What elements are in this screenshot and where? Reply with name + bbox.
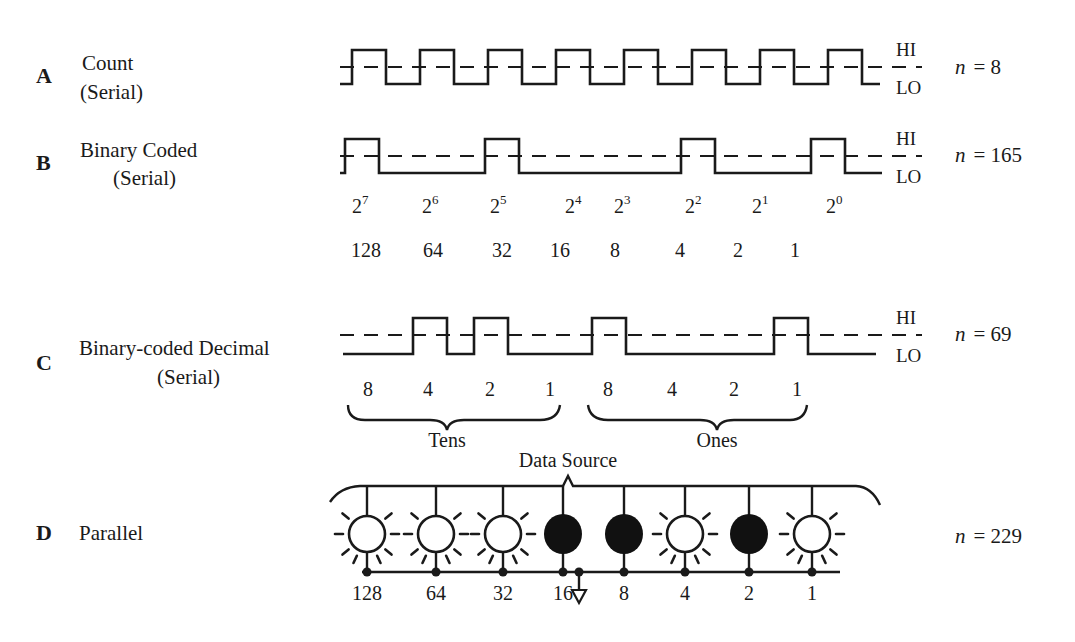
light-ray [377, 556, 380, 563]
junction-dot [559, 568, 568, 577]
data-source-bus [330, 476, 880, 505]
light-ray [478, 549, 484, 554]
lamp-dark [730, 486, 768, 577]
ones-label: Ones [696, 429, 737, 451]
light-ray [422, 556, 425, 563]
light-ray [411, 513, 417, 518]
row-c-n-equals: = 69 [974, 322, 1012, 346]
lamp-lit [335, 486, 399, 577]
bcd-weight-label: 1 [792, 378, 802, 400]
junction-dot [432, 568, 441, 577]
data-source-label: Data Source [519, 449, 617, 471]
lamp-bulb-icon [418, 516, 454, 552]
junction-dot [745, 568, 754, 577]
light-ray [660, 513, 666, 518]
junction-dot [499, 568, 508, 577]
light-ray [411, 549, 417, 554]
lamp-array [335, 486, 844, 577]
row-d-n-equals: = 229 [974, 524, 1023, 548]
weight-label: 128 [351, 239, 381, 261]
bcd-weight-label: 2 [729, 378, 739, 400]
tens-brace [348, 405, 560, 430]
tens-label: Tens [428, 429, 466, 451]
lamp-weight-label: 4 [680, 582, 690, 604]
power-exponent: 0 [836, 192, 843, 207]
row-b-letter: B [36, 150, 51, 175]
lamp-weight-label: 32 [493, 582, 513, 604]
bcd-weight-label: 8 [363, 378, 373, 400]
lamp-weight-label: 1 [807, 582, 817, 604]
lamp-bulb-icon [794, 516, 830, 552]
light-ray [830, 513, 836, 518]
power-label: 26 [422, 192, 439, 217]
bcd-weight-label: 4 [667, 378, 677, 400]
power-base: 2 [565, 195, 575, 217]
light-ray [798, 556, 801, 563]
light-ray [342, 549, 348, 554]
lamp-off-icon [730, 514, 768, 554]
light-ray [703, 513, 709, 518]
bcd-weight-label: 2 [485, 378, 495, 400]
light-ray [521, 513, 527, 518]
light-ray [353, 556, 356, 563]
weight-label: 2 [733, 239, 743, 261]
junction-dot [620, 568, 629, 577]
row-c-subtitle: (Serial) [157, 365, 220, 389]
bcd-weight-label: 8 [603, 378, 613, 400]
row-c: C Binary-coded Decimal (Serial) HI LO n=… [36, 307, 1012, 451]
light-ray [385, 513, 391, 518]
bcd-weight-label: 4 [423, 378, 433, 400]
row-a-subtitle: (Serial) [80, 80, 143, 104]
row-d-letter: D [36, 520, 52, 545]
light-ray [454, 513, 460, 518]
row-a: A Count (Serial) HI LO n= 8 [36, 39, 1001, 104]
power-base: 2 [826, 195, 836, 217]
row-b-subtitle: (Serial) [113, 166, 176, 190]
lamp-bulb-icon [349, 516, 385, 552]
light-ray [385, 549, 391, 554]
weight-label: 16 [550, 239, 570, 261]
data-representation-diagram: A Count (Serial) HI LO n= 8 B Binary Cod… [0, 0, 1075, 642]
weight-label: 8 [610, 239, 620, 261]
power-exponent: 4 [575, 192, 582, 207]
power-base: 2 [752, 195, 762, 217]
power-exponent: 3 [624, 192, 631, 207]
power-label: 20 [826, 192, 843, 217]
light-ray [787, 513, 793, 518]
bcd-weight-label: 1 [545, 378, 555, 400]
row-b-title: Binary Coded [80, 138, 198, 162]
lamp-dark [544, 486, 582, 577]
n-variable: n [955, 143, 966, 167]
lamp-weight-label: 16 [553, 582, 573, 604]
ones-brace [588, 405, 807, 430]
light-ray [478, 513, 484, 518]
weight-label: 4 [675, 239, 685, 261]
power-exponent: 5 [500, 192, 507, 207]
row-a-title: Count [82, 51, 134, 75]
row-a-lo-label: LO [896, 77, 921, 98]
lamp-lit [471, 486, 535, 577]
row-b: B Binary Coded (Serial) HI LO n= 165 272… [36, 128, 1022, 261]
lamp-bulb-icon [485, 516, 521, 552]
row-c-lo-label: LO [896, 345, 921, 366]
row-b-value: n= 165 [955, 143, 1022, 167]
row-c-value: n= 69 [955, 322, 1012, 346]
light-ray [822, 556, 825, 563]
row-c-letter: C [36, 350, 52, 375]
power-base: 2 [614, 195, 624, 217]
ground-symbol-icon [572, 590, 586, 603]
lamp-lit [780, 486, 844, 577]
n-variable: n [955, 55, 966, 79]
light-ray [787, 549, 793, 554]
light-ray [703, 549, 709, 554]
n-variable: n [955, 322, 966, 346]
power-exponent: 2 [695, 192, 702, 207]
lamp-off-icon [544, 514, 582, 554]
row-b-power-labels: 2726252423222120 [352, 192, 843, 217]
lamp-dark [605, 486, 643, 577]
row-b-hi-label: HI [896, 128, 916, 149]
lamp-weight-label: 8 [619, 582, 629, 604]
weight-label: 1 [790, 239, 800, 261]
power-base: 2 [352, 195, 362, 217]
lamp-weight-label: 2 [744, 582, 754, 604]
